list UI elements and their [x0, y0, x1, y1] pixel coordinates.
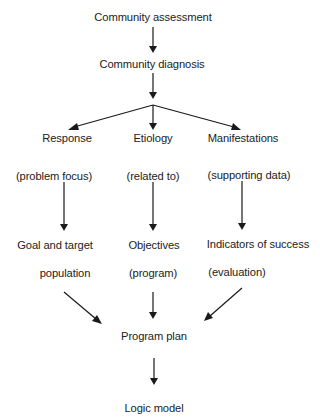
- node-objectives: Objectives: [128, 238, 179, 252]
- arrow-population-to-program-plan: [64, 292, 102, 324]
- arrow-related-to-objectives: [149, 182, 157, 231]
- arrow-diagnosis-down: [149, 73, 157, 99]
- arrow-problem-focus-to-goal: [60, 182, 68, 231]
- arrow-program-to-program-plan: [149, 292, 157, 319]
- node-problem-focus: (problem focus): [16, 169, 92, 183]
- node-program: (program): [129, 266, 177, 280]
- node-etiology: Etiology: [133, 131, 172, 145]
- arrow-to-manifestations: [153, 105, 241, 130]
- arrow-to-etiology: [149, 105, 157, 130]
- arrow-to-response: [68, 105, 153, 130]
- node-community-diagnosis: Community diagnosis: [99, 57, 204, 71]
- arrow-assessment-to-diagnosis: [149, 27, 157, 53]
- node-community-assessment: Community assessment: [94, 10, 211, 24]
- node-manifestations: Manifestations: [208, 131, 279, 145]
- node-program-plan: Program plan: [121, 329, 187, 343]
- community-planning-flowchart: Community assessment Community diagnosis…: [0, 0, 320, 418]
- node-supporting-data: (supporting data): [208, 168, 291, 182]
- node-indicators-of-success: Indicators of success: [207, 237, 309, 251]
- node-logic-model: Logic model: [124, 401, 183, 415]
- node-response: Response: [42, 131, 92, 145]
- node-population: population: [40, 266, 91, 280]
- node-goal-and-target: Goal and target: [17, 238, 93, 252]
- arrow-supporting-data-to-indicators: [238, 181, 246, 230]
- node-evaluation: (evaluation): [208, 265, 265, 279]
- arrow-program-plan-to-logic-model: [150, 358, 158, 385]
- arrow-evaluation-to-program-plan: [204, 288, 242, 321]
- node-related-to: (related to): [127, 169, 180, 183]
